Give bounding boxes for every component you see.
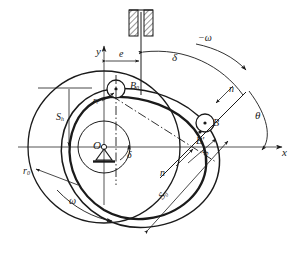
- origin-label: O: [93, 140, 101, 151]
- angle-delta-top-label: δ: [172, 52, 177, 63]
- roller-radius-label: rr: [93, 96, 99, 105]
- base-radius-leader: [36, 169, 78, 185]
- base-radius-label: r0: [23, 166, 30, 176]
- figure-canvas: [0, 0, 297, 267]
- angle-delta-arc: [143, 51, 243, 95]
- negative-omega-label: −ω: [198, 33, 212, 43]
- center-point-b: [203, 121, 206, 124]
- negative-omega-rotation-arrow: [196, 44, 246, 70]
- omega-label: ω: [69, 196, 76, 206]
- cam-mechanism-figure: y x O e B0 rr Sh r0 B B′ n n δ δ θ ω −ω …: [0, 0, 297, 267]
- cam-profile: [70, 97, 207, 219]
- angle-theta-label: θ: [255, 110, 260, 121]
- stroke-dimension: [38, 88, 92, 146]
- point-b-prime-label: B′: [196, 136, 204, 146]
- x-axis-label: x: [282, 147, 287, 158]
- y-axis-label: y: [96, 46, 101, 57]
- normal-upper-label: n: [229, 84, 234, 94]
- stroke-label: Sh: [56, 112, 64, 122]
- normal-lower-label: n: [160, 168, 165, 178]
- normal-arrow-lower: [176, 149, 193, 166]
- point-b-label: B: [213, 118, 219, 128]
- offset-label: e: [119, 49, 123, 59]
- contact-point-b-prime: [198, 130, 201, 133]
- point-b0-label: B0: [130, 81, 139, 91]
- angle-delta-origin-label: δ: [127, 150, 132, 160]
